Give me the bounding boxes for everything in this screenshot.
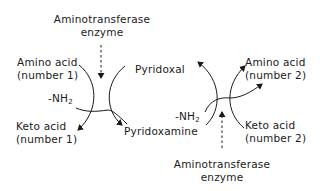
right-enzyme-line2: enzyme [172,171,272,184]
keto-acid-1-line1: Keto acid [16,120,77,133]
left-nh2-transfer-line [76,108,127,124]
amino-acid-1-line2: (number 1) [17,69,78,82]
amino-acid-2-line2: (number 2) [245,69,306,82]
right-amine-subscript: 2 [195,116,200,124]
left-enzyme-label: Aminotransferase enzyme [52,13,152,39]
pyridoxal-label: Pyridoxal [135,63,185,76]
amino-acid-1-line1: Amino acid [17,56,78,69]
transamination-diagram: Aminotransferase enzyme Amino acid (numb… [0,0,326,191]
keto-acid-2-line2: (number 2) [245,132,306,145]
keto-acid-2-label: Keto acid (number 2) [245,119,306,145]
right-enzyme-line1: Aminotransferase [172,158,272,171]
left-enzyme-line1: Aminotransferase [52,13,152,26]
right-pyridoxamine-to-pyridoxal-arrow [198,62,217,125]
right-amine-group-label: -NH2 [175,110,200,127]
amino-acid-1-label: Amino acid (number 1) [17,56,78,82]
amino-acid-2-line1: Amino acid [245,56,306,69]
left-enzyme-line2: enzyme [52,26,152,39]
amino-acid-2-label: Amino acid (number 2) [245,56,306,82]
keto-acid-1-line2: (number 1) [16,133,77,146]
left-amine-group-label: -NH2 [48,92,73,109]
left-amine-subscript: 2 [68,98,73,106]
right-enzyme-label: Aminotransferase enzyme [172,158,272,184]
right-nh2-transfer-line [205,84,262,112]
left-amino-to-keto-arrow [78,65,94,130]
right-amine-text: -NH [175,110,195,122]
left-amine-text: -NH [48,92,68,104]
keto-acid-2-line1: Keto acid [245,119,306,132]
left-pyridoxal-to-pyridoxamine-arrow [109,66,125,125]
keto-acid-1-label: Keto acid (number 1) [16,120,77,146]
